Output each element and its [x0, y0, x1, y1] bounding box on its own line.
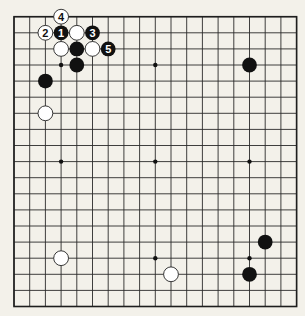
white-stone	[164, 267, 179, 282]
white-stone-disc	[38, 106, 53, 121]
black-stone-disc	[38, 74, 53, 89]
white-stone	[38, 106, 53, 121]
star-point	[153, 159, 157, 163]
move-number-label: 5	[105, 43, 111, 55]
white-stone-disc	[69, 25, 84, 40]
star-point	[247, 159, 251, 163]
star-point	[247, 256, 251, 260]
move-number-label: 3	[89, 27, 95, 39]
white-stone	[69, 25, 84, 40]
black-stone-move-1: 1	[54, 25, 69, 40]
white-stone-disc	[54, 42, 69, 57]
white-stone-disc	[85, 42, 100, 57]
black-stone	[69, 58, 84, 73]
white-stone-move-4: 4	[54, 9, 69, 24]
star-point	[59, 159, 63, 163]
white-stone	[54, 42, 69, 57]
black-stone	[258, 235, 273, 250]
go-board: 42135	[0, 0, 305, 316]
star-point	[153, 256, 157, 260]
black-stone-disc	[242, 58, 257, 73]
white-stone-disc	[164, 267, 179, 282]
star-point	[153, 63, 157, 67]
move-number-label: 2	[42, 27, 48, 39]
black-stone-disc	[69, 58, 84, 73]
black-stone-move-5: 5	[101, 42, 116, 57]
black-stone	[38, 74, 53, 89]
white-stone	[85, 42, 100, 57]
black-stone	[69, 42, 84, 57]
white-stone-move-2: 2	[38, 25, 53, 40]
black-stone-move-3: 3	[85, 25, 100, 40]
move-number-label: 1	[58, 27, 64, 39]
black-stone	[242, 267, 257, 282]
black-stone-disc	[69, 42, 84, 57]
move-number-label: 4	[58, 11, 65, 23]
white-stone	[54, 251, 69, 266]
black-stone-disc	[258, 235, 273, 250]
star-point	[59, 63, 63, 67]
black-stone	[242, 58, 257, 73]
white-stone-disc	[54, 251, 69, 266]
black-stone-disc	[242, 267, 257, 282]
